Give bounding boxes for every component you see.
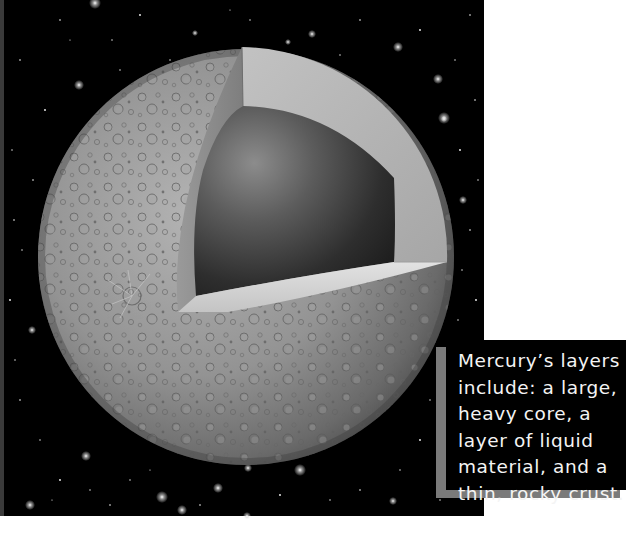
- caption-box: Mercury’s layers include: a large, heavy…: [446, 340, 626, 490]
- caption-line-3: heavy core, a: [458, 401, 626, 428]
- caption-line-4: layer of liquid: [458, 428, 626, 455]
- caption-line-2: include: a large,: [458, 375, 626, 402]
- caption-line-6: thin, rocky crust.: [458, 481, 626, 508]
- caption-line-5: material, and a: [458, 454, 626, 481]
- caption-line-1: Mercury’s layers: [458, 348, 626, 375]
- left-edge-strip: [0, 0, 4, 516]
